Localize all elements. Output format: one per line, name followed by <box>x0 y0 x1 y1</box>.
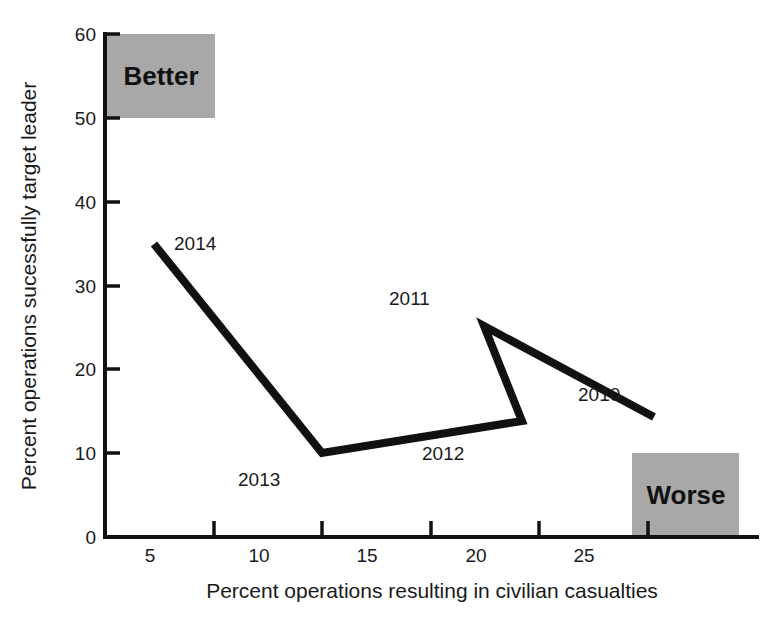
y-tick-label-0: 0 <box>85 527 96 548</box>
y-tick-label-60: 60 <box>75 24 96 45</box>
worse-annotation-label: Worse <box>647 480 726 510</box>
point-label-2014: 2014 <box>174 233 217 254</box>
y-tick-label-30: 30 <box>75 276 96 297</box>
y-tick-label-10: 10 <box>75 443 96 464</box>
better-annotation-label: Better <box>123 61 198 91</box>
y-tick-label-20: 20 <box>75 359 96 380</box>
x-tick-label-5: 5 <box>145 545 156 566</box>
x-axis-title: Percent operations resulting in civilian… <box>206 579 658 602</box>
point-label-2010: 2010 <box>578 384 620 405</box>
x-tick-label-25: 25 <box>573 545 594 566</box>
y-axis-title: Percent operations sucessfully target le… <box>17 82 40 491</box>
chart-figure: 0 10 20 30 40 50 60 5 10 15 20 25 2014 2… <box>0 0 770 617</box>
y-tick-label-50: 50 <box>75 108 96 129</box>
x-tick-label-15: 15 <box>356 545 377 566</box>
point-label-2013: 2013 <box>238 469 280 490</box>
data-series-line <box>154 244 654 453</box>
point-label-2011: 2011 <box>389 288 430 309</box>
point-label-2012: 2012 <box>422 443 464 464</box>
scatter-line-chart: 0 10 20 30 40 50 60 5 10 15 20 25 2014 2… <box>0 0 770 617</box>
x-tick-label-10: 10 <box>248 545 269 566</box>
y-tick-label-40: 40 <box>75 192 96 213</box>
x-tick-label-20: 20 <box>465 545 486 566</box>
